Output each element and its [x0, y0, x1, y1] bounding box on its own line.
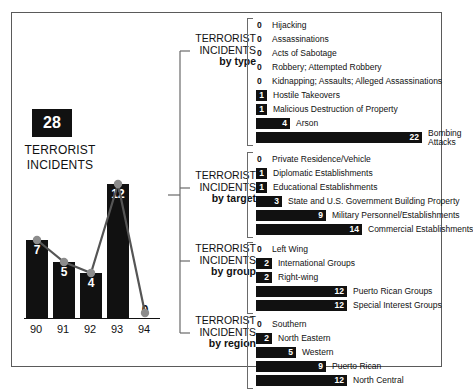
row-value: 2: [264, 272, 269, 283]
trend-bar: 12: [107, 184, 129, 318]
trend-x-tick: 94: [131, 323, 157, 335]
row-value: 9: [318, 210, 323, 221]
row-label: Diplomatic Establishments: [273, 168, 373, 179]
row-value: 1: [259, 168, 264, 179]
row-value: 0: [257, 48, 262, 59]
row-label: Puerto Rican: [332, 361, 381, 372]
row-value: 1: [259, 104, 264, 115]
row-value: 0: [257, 244, 262, 255]
row-value: 0: [257, 319, 262, 330]
row-value: 22: [410, 132, 419, 143]
row-label: Private Residence/Vehicle: [272, 154, 371, 165]
row-value: 0: [257, 76, 262, 87]
row-value: 14: [350, 224, 359, 235]
row-bar: 5: [256, 347, 296, 358]
row-value: 0: [257, 154, 262, 165]
row-label: Hijacking: [272, 20, 307, 31]
row-bar: 4: [256, 118, 290, 129]
row-label: International Groups: [278, 258, 355, 269]
row-bar: 3: [256, 196, 282, 207]
row-bar: 12: [256, 375, 347, 386]
panel-bracket: [247, 18, 253, 146]
row-label: Robbery; Attempted Robbery: [272, 62, 382, 73]
row-label: Malicious Destruction of Property: [273, 104, 398, 115]
row-label: Kidnapping; Assaults; Alleged Assassinat…: [272, 76, 442, 87]
row-label: Acts of Sabotage: [272, 48, 337, 59]
row-label: Arson: [296, 118, 318, 129]
kpi-total-box: 28: [32, 109, 72, 137]
trend-x-tick: 91: [50, 323, 76, 335]
row-label: Bombing Attacks: [428, 129, 468, 147]
row-label: Military Personnel/Establishments: [332, 210, 460, 221]
row-label: North Central: [353, 375, 404, 386]
trend-bar: 4: [80, 273, 102, 318]
row-label: Southern: [272, 319, 307, 330]
trend-chart: 28 TERRORIST INCIDENTS 7 5 4 12 0 90 91 …: [12, 13, 172, 368]
trend-bar-value: 4: [80, 276, 102, 290]
row-label: Special Interest Groups: [353, 300, 442, 311]
row-label: North Eastern: [278, 333, 330, 344]
panel-by-region: 0 Southern 2 North Eastern 5 Western 9 P…: [247, 317, 447, 389]
row-label: Assassinations: [272, 34, 329, 45]
row-label: Right-wing: [278, 272, 318, 283]
row-value: 12: [335, 300, 344, 311]
kpi-label-line1: TERRORIST: [12, 143, 108, 157]
row-value: 12: [335, 286, 344, 297]
panel-bracket: [247, 317, 253, 389]
row-label: Educational Establishments: [273, 182, 377, 193]
row-bar: 1: [256, 182, 267, 193]
row-bar: 14: [256, 224, 362, 235]
panel-by-type: 0 Hijacking 0 Assassinations 0 Acts of S…: [247, 18, 447, 146]
trend-bar-value: 0: [134, 303, 156, 317]
trend-bar-value: 7: [26, 243, 48, 257]
row-bar: 9: [256, 210, 326, 221]
row-bar: 2: [256, 258, 272, 269]
row-bar: 1: [256, 168, 267, 179]
kpi-total-value: 28: [43, 114, 61, 131]
row-value: 3: [274, 196, 279, 207]
row-bar: 1: [256, 90, 267, 101]
row-label: Commercial Establishments: [368, 224, 473, 235]
kpi-label-line2: INCIDENTS: [12, 158, 108, 172]
trend-x-tick: 92: [77, 323, 103, 335]
row-label: State and U.S. Government Building Prope…: [288, 196, 460, 207]
row-bar: 2: [256, 333, 272, 344]
trend-plot-area: 7 5 4 12 0: [24, 173, 160, 318]
row-value: 1: [259, 90, 264, 101]
row-bar: 12: [256, 300, 347, 311]
row-bar: 22: [256, 132, 422, 143]
panel-bracket: [247, 152, 253, 238]
row-value: 0: [257, 62, 262, 73]
trend-bar: 5: [53, 262, 75, 318]
trend-x-tick: 90: [23, 323, 49, 335]
trend-bar-value: 12: [107, 187, 129, 201]
row-value: 0: [257, 34, 262, 45]
row-label: Puerto Rican Groups: [353, 286, 432, 297]
row-label: Western: [302, 347, 334, 358]
row-value: 2: [264, 258, 269, 269]
infographic-frame: 28 TERRORIST INCIDENTS 7 5 4 12 0 90 91 …: [11, 12, 442, 367]
row-label: Hostile Takeovers: [273, 90, 340, 101]
trend-x-tick: 93: [104, 323, 130, 335]
row-bar: 2: [256, 272, 272, 283]
trend-bar-value: 5: [53, 265, 75, 279]
row-value: 4: [282, 118, 287, 129]
row-value: 9: [318, 361, 323, 372]
panel-by-target: 0 Private Residence/Vehicle 1 Diplomatic…: [247, 152, 447, 238]
trend-bar: 7: [26, 240, 48, 318]
trend-x-axis: [24, 318, 160, 319]
row-value: 12: [335, 375, 344, 386]
row-label: Left Wing: [272, 244, 308, 255]
panel-bracket: [247, 242, 253, 314]
row-value: 2: [264, 333, 269, 344]
row-value: 1: [259, 182, 264, 193]
panel-by-group: 0 Left Wing 2 International Groups 2 Rig…: [247, 242, 447, 314]
row-value: 5: [288, 347, 293, 358]
row-value: 0: [257, 20, 262, 31]
row-bar: 12: [256, 286, 347, 297]
row-bar: 1: [256, 104, 267, 115]
row-bar: 9: [256, 361, 326, 372]
